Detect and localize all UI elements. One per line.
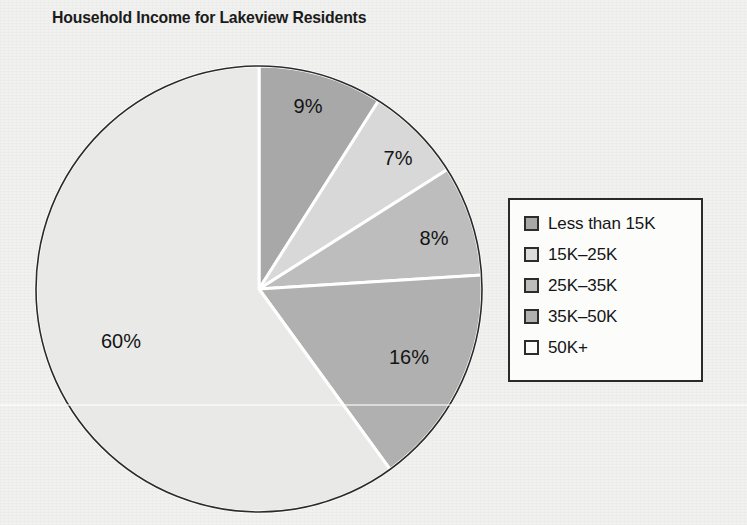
legend-swatch-icon [524,309,539,324]
legend-item-35k-50k[interactable]: 35K–50K [524,306,655,327]
legend-item-15k-25k[interactable]: 15K–25K [524,244,655,265]
legend-item-50k-plus[interactable]: 50K+ [524,337,655,358]
legend-swatch-icon [524,278,539,293]
slice-label-9: 9% [294,95,323,117]
slice-label-60: 60% [101,330,141,352]
slice-label-8: 8% [420,227,449,249]
slice-label-7: 7% [384,147,413,169]
legend-swatch-icon [524,216,539,231]
legend-item-less-than-15k[interactable]: Less than 15K [524,213,655,234]
legend-label: 15K–25K [548,245,617,265]
legend: Less than 15K 15K–25K 25K–35K 35K–50K 50… [508,198,703,382]
legend-label: Less than 15K [548,214,655,234]
legend-swatch-icon [524,340,539,355]
legend-label: 35K–50K [548,307,617,327]
chart-page: Household Income for Lakeview Residents … [0,0,747,525]
legend-item-25k-35k[interactable]: 25K–35K [524,275,655,296]
legend-swatch-icon [524,247,539,262]
legend-label: 50K+ [548,338,588,358]
legend-label: 25K–35K [548,276,617,296]
legend-items: Less than 15K 15K–25K 25K–35K 35K–50K 50… [524,213,655,358]
slice-label-16: 16% [389,346,429,368]
